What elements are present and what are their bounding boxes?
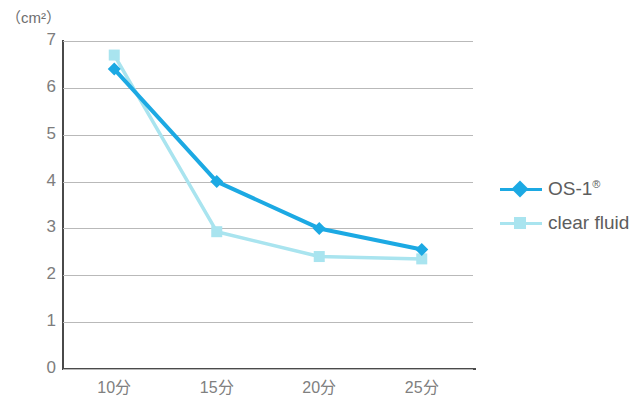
chart-legend: OS-1®clear fluid [500, 172, 629, 240]
legend-square-icon [514, 217, 526, 229]
chart-container: （cm²） 01234567 10分15分20分25分 OS-1®clear f… [0, 0, 633, 404]
data-point-marker [313, 222, 326, 235]
data-point-marker [314, 251, 325, 262]
legend-item[interactable]: clear fluid [500, 206, 629, 240]
series-line [114, 55, 422, 259]
legend-swatch [500, 214, 542, 232]
legend-label: clear fluid [548, 212, 629, 234]
data-point-marker [109, 50, 120, 61]
data-point-marker [211, 226, 222, 237]
legend-item[interactable]: OS-1® [500, 172, 629, 206]
series-line [114, 69, 422, 249]
legend-label: OS-1® [548, 178, 600, 200]
legend-swatch [500, 180, 542, 198]
registered-mark-icon: ® [592, 178, 600, 190]
legend-diamond-icon [512, 181, 529, 198]
